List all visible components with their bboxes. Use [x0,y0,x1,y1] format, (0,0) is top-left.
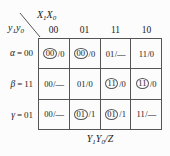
output-value: 0 [91,49,95,59]
cell-alpha-11: 01/— [101,39,132,68]
cell-beta-11: 11/0 [101,69,132,98]
column-header-10: 10 [131,23,162,37]
row-header-column: α = 00 β = 11 γ = 01 [0,38,36,130]
output-value: — [56,79,65,89]
column-variable-label: X1X0 [37,9,56,22]
cell-alpha-01: 00/0 [70,39,101,68]
output-value: 0 [122,79,126,89]
table-row: 00/— 01/0 11/0 11/0 [39,69,161,99]
cell-beta-01: 01/0 [70,69,101,98]
next-state-value: 11 [105,78,118,89]
next-state-value: 01 [74,109,88,120]
column-header-11: 11 [100,23,131,37]
cell-alpha-10: 11/0 [131,39,161,68]
cell-alpha-00: 00/0 [39,39,70,68]
row-header-beta-code: 11 [24,79,33,89]
column-variable-x1: X1 [37,9,47,20]
caption-slash-z: /Z [105,133,113,144]
output-value: 0 [88,79,92,89]
table-row: 00/0 00/0 01/— 11/0 [39,39,161,69]
cell-gamma-01: 01/1 [70,100,101,129]
column-variable-x0: X0 [47,9,57,20]
figure-caption: Y1Y0/Z [38,133,162,146]
next-state-value: 01 [77,79,87,89]
column-header-row: 00 01 11 10 [38,23,162,37]
cell-beta-10: 11/0 [131,69,161,98]
row-header-beta-symbol: β [11,79,16,89]
output-value: 0 [60,49,64,59]
flow-table-grid: 00/0 00/0 01/— 11/0 00/— 01/0 11/0 [38,38,162,130]
column-header-01: 01 [69,23,100,37]
next-state-value: 00 [43,48,57,59]
row-header-alpha-code: 00 [24,48,33,58]
next-state-value: 11 [136,78,149,89]
next-state-value: 00 [44,109,54,119]
row-header-gamma: γ = 01 [0,99,36,130]
flow-table-figure: X1X0 y1y0 00 01 11 10 α = 00 β = 11 γ = … [0,0,170,156]
output-value: — [56,109,65,119]
output-value: — [148,109,157,119]
row-variable-y1: y1 [8,22,16,33]
cell-gamma-11: 01/1 [101,100,132,129]
next-state-value: 00 [44,79,54,89]
output-value: — [117,49,126,59]
caption-y0: Y0 [96,133,105,144]
table-row: 00/— 01/1 01/1 11/— [39,100,161,129]
column-header-00: 00 [38,23,69,37]
row-variable-label: y1y0 [8,22,24,35]
row-header-alpha-equals: = [17,48,22,58]
next-state-value: 11 [138,49,147,59]
row-header-gamma-symbol: γ [11,110,15,120]
row-variable-y0: y0 [16,22,24,33]
next-state-value: 01 [105,49,115,59]
next-state-value: 00 [74,48,88,59]
next-state-value: 11 [136,109,145,119]
row-header-alpha-symbol: α [10,48,15,58]
row-header-beta: β = 11 [0,69,36,100]
caption-y1: Y1 [87,133,96,144]
row-header-gamma-equals: = [17,110,22,120]
output-value: 0 [150,49,154,59]
output-value: 0 [152,79,156,89]
row-header-gamma-code: 01 [24,110,33,120]
output-value: 1 [122,109,126,119]
cell-gamma-10: 11/— [131,100,161,129]
row-header-alpha: α = 00 [0,38,36,69]
next-state-value: 01 [105,109,119,120]
output-value: 1 [91,109,95,119]
cell-gamma-00: 00/— [39,100,70,129]
row-header-beta-equals: = [17,79,22,89]
cell-beta-00: 00/— [39,69,70,98]
